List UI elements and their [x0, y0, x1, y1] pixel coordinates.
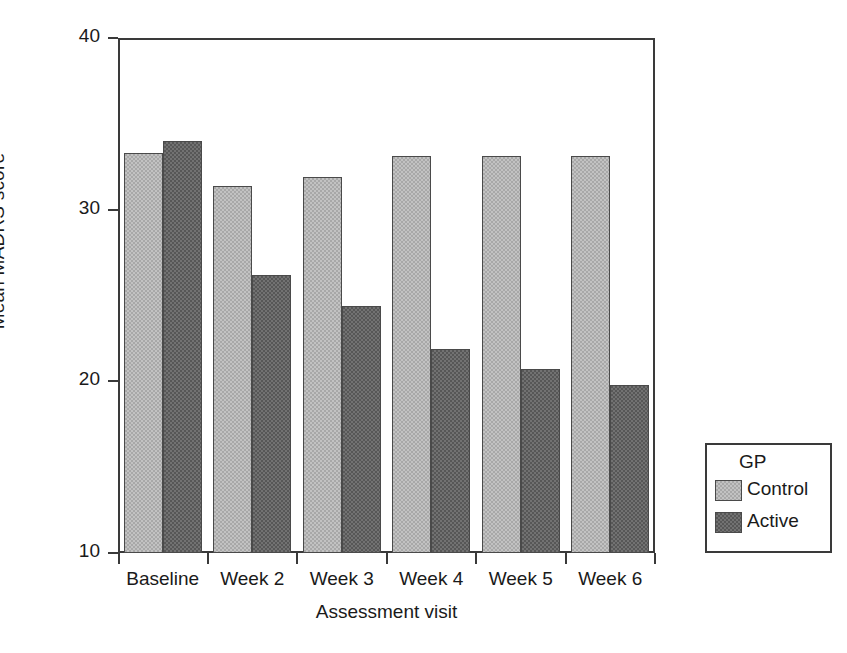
bar-active-week-4: [431, 349, 470, 553]
bar-active-week-3: [342, 306, 381, 553]
y-tick-mark: [108, 209, 118, 211]
legend-swatch-active: [715, 512, 742, 533]
x-tick-mark: [118, 553, 120, 564]
y-tick-label: 40: [40, 25, 100, 47]
x-tick-mark: [207, 553, 209, 564]
legend-swatch-control: [715, 480, 742, 501]
y-tick-mark: [108, 37, 118, 39]
bar-control-week-5: [482, 156, 521, 553]
y-tick-mark: [108, 380, 118, 382]
bar-chart-figure: Mean MADRS score 10203040 Assessment vis…: [0, 0, 847, 653]
x-tick-mark: [296, 553, 298, 564]
y-axis-title: Mean MADRS score: [0, 31, 9, 451]
y-tick-label: 20: [40, 368, 100, 390]
y-tick-label: 30: [40, 197, 100, 219]
bar-active-week-6: [610, 385, 649, 553]
x-tick-mark: [654, 553, 656, 564]
bar-active-week-2: [252, 275, 291, 553]
legend: GP ControlActive: [705, 443, 832, 553]
y-tick-mark: [108, 552, 118, 554]
bar-control-week-3: [303, 177, 342, 553]
bar-control-week-2: [213, 186, 252, 553]
x-axis-title: Assessment visit: [118, 601, 655, 623]
x-tick-mark: [475, 553, 477, 564]
legend-label-active: Active: [747, 510, 799, 532]
y-tick-label: 10: [40, 540, 100, 562]
bar-active-week-5: [521, 369, 560, 553]
bar-active-baseline: [163, 141, 202, 553]
legend-title: GP: [739, 451, 766, 473]
bar-control-baseline: [124, 153, 163, 553]
legend-label-control: Control: [747, 478, 808, 500]
x-tick-mark: [565, 553, 567, 564]
x-tick-label: Week 6: [540, 568, 680, 590]
x-tick-mark: [386, 553, 388, 564]
bar-control-week-4: [392, 156, 431, 553]
bar-control-week-6: [571, 156, 610, 553]
